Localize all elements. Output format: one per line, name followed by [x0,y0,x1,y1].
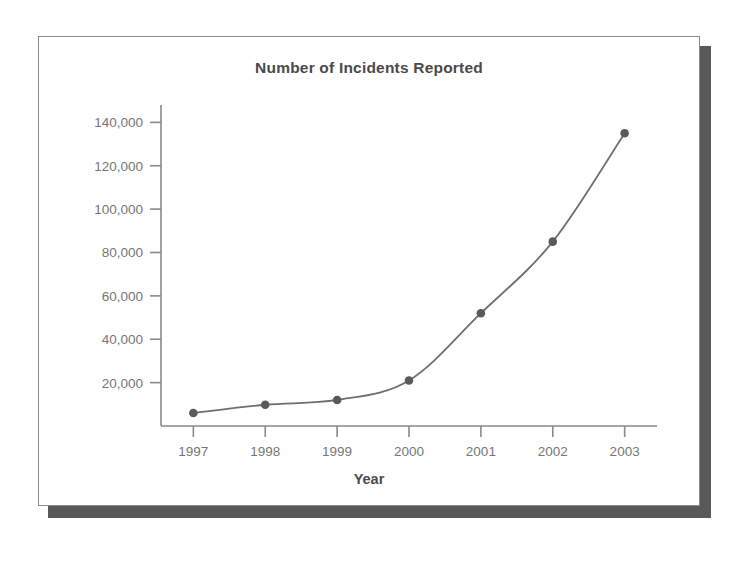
y-axis-tick-label: 80,000 [102,245,143,260]
data-point-marker [261,400,270,409]
x-axis-title: Year [39,471,699,487]
chart-panel: Number of Incidents Reported 20,00040,00… [38,36,700,506]
y-axis-tick-label: 100,000 [94,202,143,217]
x-axis-tick-label: 2001 [466,444,496,459]
data-point-marker [477,309,486,318]
y-axis-tick-label: 60,000 [102,288,143,303]
y-axis-tick-label: 120,000 [94,158,143,173]
x-axis-tick-label: 1999 [322,444,352,459]
screenshot-canvas: Number of Incidents Reported 20,00040,00… [0,0,747,569]
y-axis-tick-label: 140,000 [94,115,143,130]
y-axis-ticks [150,122,161,382]
series-line [193,133,624,413]
x-axis-tick-label: 2003 [610,444,640,459]
y-axis-tick-label: 20,000 [102,375,143,390]
y-axis-tick-label: 40,000 [102,332,143,347]
line-chart-svg [39,37,701,507]
data-point-marker [333,396,342,405]
series-markers [189,129,629,417]
plot-area: 20,00040,00060,00080,000100,000120,00014… [39,37,701,507]
x-axis-ticks [193,426,624,437]
data-point-marker [620,129,629,138]
data-point-marker [405,376,414,385]
x-axis-tick-label: 2002 [538,444,568,459]
x-axis-tick-label: 1998 [250,444,280,459]
x-axis-tick-label: 1997 [178,444,208,459]
x-axis-tick-label: 2000 [394,444,424,459]
data-point-marker [189,409,198,418]
data-point-marker [548,237,557,246]
